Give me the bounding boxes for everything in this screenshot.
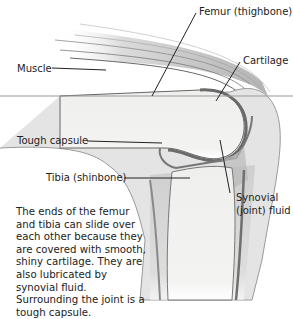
tibia-bone <box>167 166 235 300</box>
description-paragraph: The ends of the femur and tibia can slid… <box>16 206 148 319</box>
label-cartilage: Cartilage <box>243 55 288 67</box>
label-muscle: Muscle <box>17 63 52 75</box>
label-joint-fluid: (joint) fluid <box>236 205 291 217</box>
label-tough-capsule: Tough capsule <box>17 135 88 147</box>
muscle-fibres <box>55 24 270 96</box>
label-tibia: Tibia (shinbone) <box>46 172 126 184</box>
label-synovial: Synovial <box>236 192 278 204</box>
label-femur: Femur (thighbone) <box>199 6 292 18</box>
